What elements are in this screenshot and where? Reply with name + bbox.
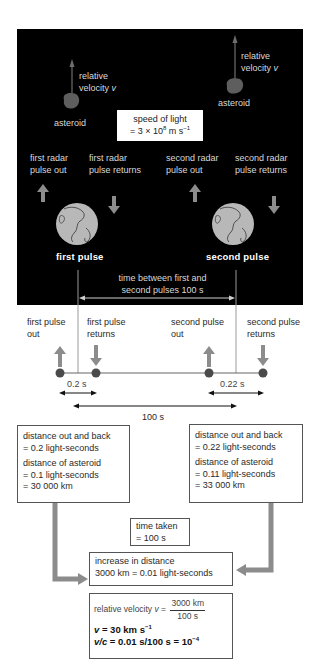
radar-arrow-first-out <box>37 184 49 202</box>
asteroid-left-velocity-label: relative velocity v <box>79 70 116 94</box>
timeline-arrow-first-out <box>54 346 66 367</box>
left-distance-box: distance out and back = 0.2 light-second… <box>17 425 130 503</box>
radar-arrow-second-out <box>189 184 201 202</box>
earth-globe-second <box>212 203 254 245</box>
radar-arrow-second-return <box>268 196 280 214</box>
timeline-label-second-out: second pulseout <box>171 316 224 340</box>
interval-arrow-2 <box>208 391 264 396</box>
time-between-label: time between first andsecond pulses 100 … <box>0 272 321 296</box>
radar-label-first-return: first radarpulse returns <box>89 152 141 176</box>
interval-arrow-1 <box>59 391 97 396</box>
right-distance-box: distance out and back = 0.22 light-secon… <box>189 424 303 503</box>
time-taken-box: time taken = 100 s <box>130 518 190 546</box>
earth-label-first: first pulse <box>56 251 104 262</box>
speed-of-light-box: speed of light = 3 × 108 m s−1 <box>117 110 203 141</box>
timeline-dot-second-return <box>259 369 268 378</box>
timeline-arrow-second-return <box>257 345 269 366</box>
relative-velocity-box: relative velocity v = 3000 km100 s v = 3… <box>89 593 233 659</box>
flow-arrow-left <box>55 503 88 585</box>
velocity-ratio-result: v/c = 0.01 s/100 s = 10−4 <box>94 636 228 648</box>
timeline-dot-first-out <box>56 369 65 378</box>
interval-label-total: 100 s <box>142 411 164 423</box>
timeline-label-first-return: first pulsereturns <box>87 316 126 340</box>
asteroid-left <box>64 59 80 109</box>
increase-distance-box: increase in distance 3000 km = 0.01 ligh… <box>89 552 233 586</box>
radar-label-second-return: second radarpulse returns <box>235 152 288 176</box>
timeline-dot-first-return <box>92 369 101 378</box>
time-between-arrow <box>79 296 235 301</box>
earth-globe-first <box>56 203 98 245</box>
interval-arrow-total <box>73 404 237 409</box>
timeline-dot-second-out <box>205 369 214 378</box>
radar-arrow-first-return <box>108 196 120 214</box>
interval-label-2: 0.22 s <box>220 378 245 390</box>
asteroid-right-velocity-label: relative velocity v <box>241 50 278 74</box>
radar-label-second-out: second radarpulse out <box>166 152 219 176</box>
interval-label-1: 0.2 s <box>67 378 87 390</box>
asteroid-left-label: asteroid <box>54 117 86 129</box>
radar-label-first-out: first radarpulse out <box>30 152 68 176</box>
flow-arrow-right <box>236 503 271 576</box>
asteroid-right-label: asteroid <box>218 97 250 109</box>
timeline-label-first-out: first pulseout <box>27 316 66 340</box>
relative-velocity-formula: relative velocity v = 3000 km100 s <box>94 598 228 622</box>
earth-label-second: second pulse <box>206 251 269 262</box>
velocity-result: v = 30 km s−1 <box>94 624 228 636</box>
timeline-arrow-second-out <box>203 346 215 367</box>
timeline-label-second-return: second pulsereturns <box>247 316 300 340</box>
timeline-arrow-first-return <box>90 345 102 366</box>
